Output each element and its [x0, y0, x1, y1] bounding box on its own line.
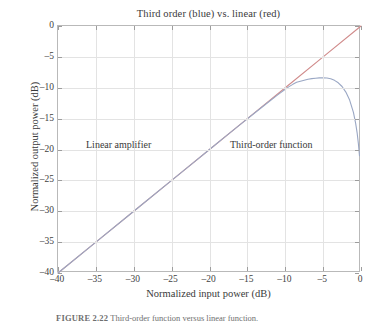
chart-title: Third order (blue) vs. linear (red)	[57, 8, 360, 19]
x-axis-tick	[96, 26, 97, 30]
y-tick-label: –5	[45, 51, 55, 61]
y-tick-label: –15	[40, 113, 54, 123]
x-axis-tick	[323, 267, 324, 271]
y-axis-tick	[58, 211, 62, 212]
y-axis-tick	[58, 88, 62, 89]
y-axis-tick	[58, 57, 62, 58]
y-tick-label: –25	[40, 174, 54, 184]
x-axis-tick	[134, 26, 135, 30]
y-axis-tick	[355, 57, 359, 58]
gridline-horizontal	[58, 119, 359, 120]
y-axis-tick	[58, 150, 62, 151]
y-axis-tick	[355, 88, 359, 89]
y-tick-label: –30	[40, 205, 54, 215]
y-axis-tick	[58, 242, 62, 243]
x-tick-label: –35	[88, 274, 102, 284]
x-axis-tick	[172, 26, 173, 30]
x-axis-tick	[323, 26, 324, 30]
y-tick-label: –35	[40, 236, 54, 246]
y-axis-tick	[355, 150, 359, 151]
figure-caption-label: FIGURE 2.22	[56, 313, 108, 323]
x-axis-tick	[361, 26, 362, 30]
x-axis-tick	[210, 267, 211, 271]
x-axis-tick	[247, 26, 248, 30]
y-axis-tick	[355, 211, 359, 212]
x-axis-tick	[58, 267, 59, 271]
gridline-horizontal	[58, 211, 359, 212]
x-axis-title: Normalized input power (dB)	[57, 288, 360, 299]
y-tick-label: –10	[40, 82, 54, 92]
annotation-third-order-function: Third-order function	[230, 139, 312, 150]
y-tick-label: 0	[49, 20, 54, 30]
x-axis-tick	[247, 267, 248, 271]
y-axis-title: Normalized output power (dB)	[29, 47, 40, 247]
x-tick-label: –20	[201, 274, 215, 284]
y-tick-label: –20	[40, 144, 54, 154]
figure-caption: FIGURE 2.22 Third-order function versus …	[56, 313, 376, 323]
y-axis-tick	[355, 180, 359, 181]
x-axis-tick-labels: –40–35–30–25–20–15–10–50	[57, 274, 360, 288]
y-axis-tick	[58, 26, 62, 27]
x-axis-tick	[361, 267, 362, 271]
y-axis-tick	[355, 26, 359, 27]
gridline-horizontal	[58, 150, 359, 151]
x-tick-label: 0	[358, 274, 363, 284]
series-line	[58, 78, 359, 273]
x-axis-tick	[285, 26, 286, 30]
x-tick-label: –40	[50, 274, 64, 284]
x-tick-label: –15	[239, 274, 253, 284]
y-axis-tick	[355, 119, 359, 120]
annotation-linear-amplifier: Linear amplifier	[86, 139, 151, 150]
gridline-vertical	[323, 26, 324, 271]
gridline-horizontal	[58, 57, 359, 58]
x-axis-tick	[96, 267, 97, 271]
figure-container: Third order (blue) vs. linear (red) 0–5–…	[0, 0, 381, 323]
y-axis-tick	[58, 119, 62, 120]
x-axis-tick	[285, 267, 286, 271]
figure-caption-text: Third-order function versus linear funct…	[110, 313, 258, 323]
x-axis-tick	[210, 26, 211, 30]
gridline-vertical	[210, 26, 211, 271]
gridline-horizontal	[58, 88, 359, 89]
y-axis-tick	[58, 180, 62, 181]
gridline-horizontal	[58, 180, 359, 181]
gridline-horizontal	[58, 242, 359, 243]
y-axis-tick	[355, 242, 359, 243]
x-tick-label: –5	[317, 274, 327, 284]
x-axis-tick	[172, 267, 173, 271]
x-axis-tick	[134, 267, 135, 271]
x-tick-label: –30	[126, 274, 140, 284]
gridline-vertical	[172, 26, 173, 271]
x-tick-label: –25	[164, 274, 178, 284]
x-tick-label: –10	[277, 274, 291, 284]
